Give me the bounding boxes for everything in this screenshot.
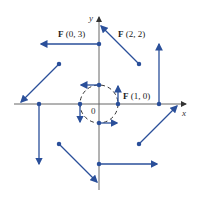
origin-label: 0 [91,107,96,116]
label-f-0-3: F (0, 3) [58,30,85,39]
label-f-1-0: F (1, 0) [123,92,150,101]
vector-field-plot [0,0,200,206]
label-f-2-2: F (2, 2) [118,30,145,39]
y-axis-label: y [89,14,93,23]
x-axis-label: x [182,109,186,118]
